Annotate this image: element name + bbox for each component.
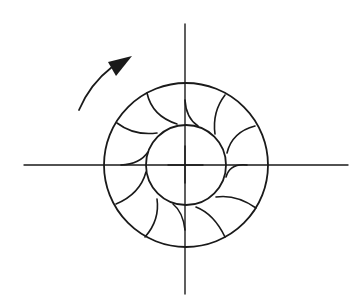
diagram-background <box>0 0 360 299</box>
impeller-diagram <box>0 0 360 299</box>
